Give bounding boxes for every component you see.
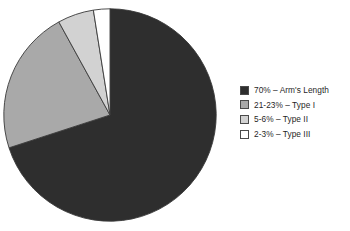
chart-title-fragment xyxy=(0,0,350,2)
legend-item-label: 5-6% – Type II xyxy=(254,114,308,124)
legend-item-label: 70% – Arm's Length xyxy=(254,85,329,95)
pie-svg xyxy=(3,8,217,222)
legend-swatch-icon xyxy=(240,86,249,95)
legend-swatch-icon xyxy=(240,100,249,109)
legend-item-type-ii: 5-6% – Type II xyxy=(240,112,350,127)
legend-item-label: 2-3% – Type III xyxy=(254,129,310,139)
pie-plot-area xyxy=(3,8,217,222)
legend-item-type-iii: 2-3% – Type III xyxy=(240,127,350,142)
chart-legend: 70% – Arm's Length21-23% – Type I5-6% – … xyxy=(240,83,350,141)
pie-chart-figure: 70% – Arm's Length21-23% – Type I5-6% – … xyxy=(0,0,350,231)
pie-slice-group xyxy=(4,9,216,221)
legend-swatch-icon xyxy=(240,130,249,139)
legend-item-label: 21-23% – Type I xyxy=(254,100,315,110)
legend-item-arms-length: 70% – Arm's Length xyxy=(240,83,350,98)
legend-item-type-i: 21-23% – Type I xyxy=(240,98,350,113)
legend-swatch-icon xyxy=(240,115,249,124)
